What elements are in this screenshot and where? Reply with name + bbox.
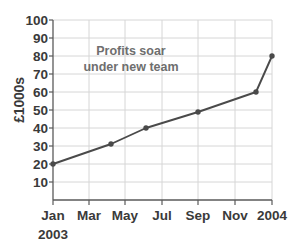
chart-annotation: Profits soar under new team bbox=[66, 44, 196, 75]
x-tick-label-nov: Nov bbox=[219, 209, 251, 223]
data-point bbox=[108, 141, 113, 146]
data-point bbox=[253, 89, 258, 94]
x-tick-label-2004: 2004 bbox=[253, 209, 291, 223]
data-point bbox=[143, 125, 148, 130]
x-tick-label-sep: Sep bbox=[182, 209, 214, 223]
x-axis-year-2003: 2003 bbox=[35, 228, 71, 242]
annotation-line-1: Profits soar bbox=[66, 44, 196, 60]
data-point bbox=[50, 161, 55, 166]
line-chart: £1000s 100 90 80 70 60 50 40 30 20 10 bbox=[0, 0, 301, 249]
x-axis-ticks bbox=[53, 200, 272, 205]
annotation-line-2: under new team bbox=[66, 60, 196, 76]
data-point bbox=[269, 53, 274, 58]
x-tick-label-may: May bbox=[109, 209, 141, 223]
x-tick-label-jul: Jul bbox=[146, 209, 178, 223]
x-tick-label-jan: Jan bbox=[37, 209, 69, 223]
data-point bbox=[195, 109, 200, 114]
x-tick-label-mar: Mar bbox=[73, 209, 105, 223]
